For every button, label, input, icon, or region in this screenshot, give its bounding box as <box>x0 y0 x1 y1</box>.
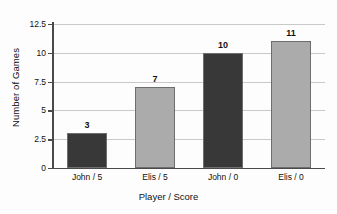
bar-value-label: 3 <box>57 120 117 130</box>
bar <box>67 133 107 168</box>
y-axis-title: Number of Games <box>6 0 26 175</box>
bar <box>271 41 311 168</box>
x-axis-title: Player / Score <box>0 191 337 202</box>
bar-value-label: 10 <box>193 40 253 50</box>
plot-area: 371011 <box>53 24 325 168</box>
bar-chart: Number of Games 02.557.51012.5 371011 Jo… <box>0 0 337 214</box>
y-axis-tick-label: 5 <box>2 105 46 115</box>
y-axis-tick-label: 10 <box>2 48 46 58</box>
y-axis-tick <box>48 82 52 83</box>
x-axis-line <box>52 168 325 170</box>
y-axis-tick <box>48 168 52 169</box>
y-axis-tick-label: 0 <box>2 163 46 173</box>
bar-value-label: 11 <box>261 28 321 38</box>
bar <box>203 53 243 168</box>
y-axis-tick-labels: 02.557.51012.5 <box>0 0 46 214</box>
y-axis-tick <box>48 110 52 111</box>
y-axis-tick-label: 12.5 <box>2 19 46 29</box>
gridline <box>53 24 325 25</box>
y-axis-line <box>52 22 54 169</box>
x-axis-category-label: Elis / 0 <box>251 172 331 182</box>
bar <box>135 87 175 168</box>
y-axis-tick <box>48 53 52 54</box>
y-axis-tick-label: 7.5 <box>2 77 46 87</box>
bar-value-label: 7 <box>125 74 185 84</box>
y-axis-tick <box>48 139 52 140</box>
y-axis-title-text: Number of Games <box>11 48 22 127</box>
y-axis-tick-label: 2.5 <box>2 134 46 144</box>
y-axis-tick <box>48 24 52 25</box>
